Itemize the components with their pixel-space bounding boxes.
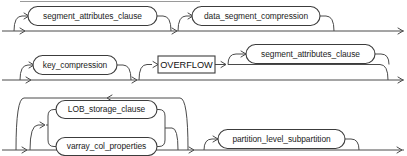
row-3-group: LOB_storage_clause varray_col_properties… [2,95,404,156]
node-label-partition-level-subpartition: partition_level_subpartition [232,134,331,144]
row-3-alt-merge-up-lob [157,110,165,117]
node-varray-col-properties[interactable]: varray_col_properties [56,138,157,156]
row-3-alt-left-stem [30,125,44,150]
row-1-branch-down-right-2 [320,16,334,31]
row-1-branch-down-right-1 [157,16,171,31]
row-2-branch-down-right-3 [375,54,389,65]
node-label-segment-attributes-clause-2: segment_attributes_clause [261,49,360,59]
row-3-alt-branch-down-varray [48,140,56,147]
row-2-branch-down-right-1 [117,65,131,80]
node-label-varray-col-properties: varray_col_properties [67,141,146,151]
node-segment-attributes-clause-2[interactable]: segment_attributes_clause [246,45,375,64]
node-label-overflow: OVERFLOW [160,60,213,70]
row-2-branch-up-left-2 [139,65,152,81]
node-label-segment-attributes-clause-1: segment_attributes_clause [43,11,142,21]
node-label-lob-storage-clause: LOB_storage_clause [68,104,146,114]
node-lob-storage-clause[interactable]: LOB_storage_clause [56,101,157,119]
row-2-overflow-entry-arrow-icon [153,62,158,68]
node-label-data-segment-compression: data_segment_compression [204,11,308,21]
row-3-alt-right-stem [165,128,178,150]
row-3-alt-merge-down-varray [157,140,165,147]
node-segment-attributes-clause-1[interactable]: segment_attributes_clause [28,7,157,26]
railroad-diagram: segment_attributes_clause data_segment_c… [0,0,407,156]
row-2-group: key_compression OVERFLOW segment_attribu… [2,45,404,84]
node-data-segment-compression[interactable]: data_segment_compression [192,7,320,26]
node-key-compression[interactable]: key_compression [33,56,117,75]
row-2-inner-bypass-rail [228,65,388,81]
node-partition-level-subpartition[interactable]: partition_level_subpartition [218,130,345,149]
row-3-alt-fork-bar [46,116,48,140]
railroad-diagram-canvas: segment_attributes_clause data_segment_c… [0,0,407,156]
node-label-key-compression: key_compression [43,60,108,70]
node-overflow-keyword[interactable]: OVERFLOW [158,56,215,73]
row-3-branch-down-right-pls [345,139,359,150]
row-1-group: segment_attributes_clause data_segment_c… [2,7,404,35]
row-3-alt-branch-up-lob [48,110,56,117]
